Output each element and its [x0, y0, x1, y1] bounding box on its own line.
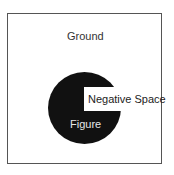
ground-label: Ground — [67, 30, 104, 42]
figure-label: Figure — [70, 118, 101, 130]
negative-space-label: Negative Space — [88, 93, 166, 105]
ground-frame: Ground Negative Space Figure — [7, 13, 162, 164]
diagram-canvas: Ground Negative Space Figure — [0, 0, 174, 175]
